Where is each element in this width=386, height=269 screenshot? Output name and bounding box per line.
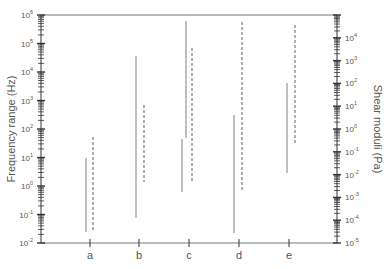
right-tick-label: 100 <box>345 123 357 134</box>
left-tick-label: 106 <box>21 9 33 20</box>
right-tick-label: 104 <box>345 32 357 43</box>
x-axis-category-ticks: abcde <box>87 239 292 261</box>
frequency-range-series <box>86 21 287 233</box>
right-tick-label: 10-2 <box>345 169 359 180</box>
right-tick-label: 102 <box>345 77 357 88</box>
left-tick-label: 10-2 <box>19 237 33 248</box>
right-tick-label: 103 <box>345 55 357 66</box>
category-label-d: d <box>236 249 242 261</box>
category-label-c: c <box>186 249 192 261</box>
left-tick-label: 104 <box>21 66 33 77</box>
shear-moduli-series <box>93 22 295 230</box>
right-tick-label: 10-1 <box>345 146 359 157</box>
right-tick-label: 101 <box>345 100 357 111</box>
right-axis-title: Shear moduli (Pa) <box>372 85 384 174</box>
left-tick-label: 10-1 <box>19 209 33 220</box>
category-label-a: a <box>87 249 94 261</box>
left-tick-label: 102 <box>21 123 33 134</box>
right-tick-label: 10-4 <box>345 214 359 225</box>
category-label-b: b <box>136 249 142 261</box>
left-tick-label: 105 <box>21 38 33 49</box>
left-tick-label: 103 <box>21 95 33 106</box>
dual-axis-range-chart: 10-210-1100101102103104105106 10-510-410… <box>0 0 386 269</box>
left-tick-label: 100 <box>21 180 33 191</box>
right-axis-tick-labels: 10-510-410-310-210-1100101102103104 <box>345 32 359 248</box>
left-axis-title: Frequency range (Hz) <box>5 76 17 183</box>
left-axis-tick-labels: 10-210-1100101102103104105106 <box>19 9 33 248</box>
category-label-e: e <box>286 249 292 261</box>
right-tick-label: 10-3 <box>345 191 359 202</box>
left-tick-label: 101 <box>21 152 33 163</box>
right-tick-label: 10-5 <box>345 237 359 248</box>
